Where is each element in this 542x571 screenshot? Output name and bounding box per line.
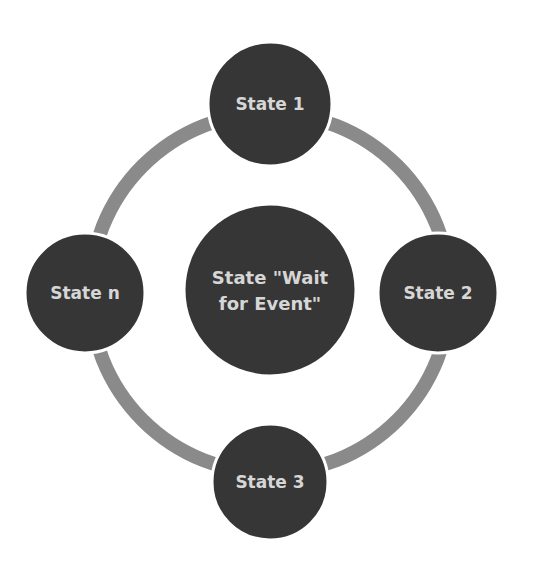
node-state-2: State 2 <box>378 233 498 353</box>
node-state-n: State n <box>25 233 145 353</box>
state-1-label: State 1 <box>235 94 304 114</box>
node-wait-for-event: State "Wait for Event" <box>184 204 356 376</box>
state-n-label: State n <box>50 283 120 303</box>
wait-for-event-label-line-1: State "Wait <box>212 267 329 288</box>
node-state-1: State 1 <box>208 42 332 166</box>
state-2-label: State 2 <box>403 283 472 303</box>
wait-for-event-circle <box>184 204 356 376</box>
node-state-3: State 3 <box>212 424 328 540</box>
state-cycle-diagram: State 1 State 2 State 3 State n State "W… <box>0 0 542 571</box>
state-3-label: State 3 <box>235 472 304 492</box>
diagram-svg: State 1 State 2 State 3 State n State "W… <box>0 0 542 571</box>
wait-for-event-label-line-2: for Event" <box>219 293 321 314</box>
